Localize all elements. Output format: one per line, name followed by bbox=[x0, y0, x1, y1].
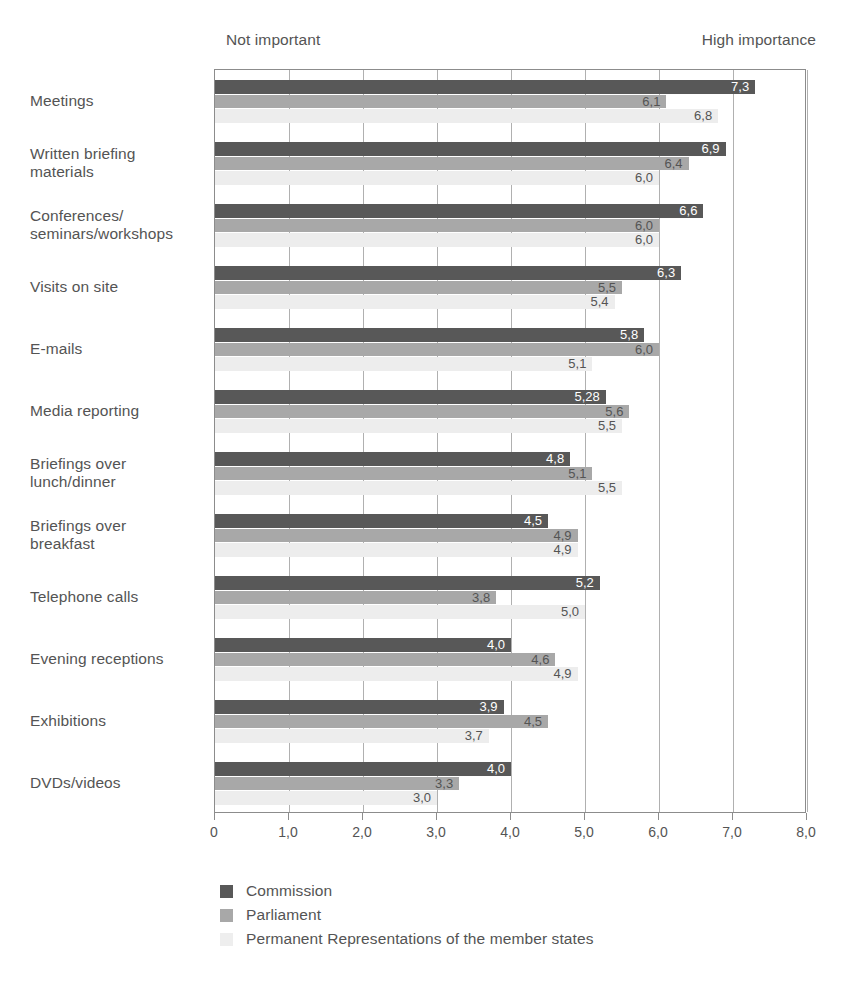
bar[interactable] bbox=[215, 605, 585, 619]
bar-row[interactable]: 5,5 bbox=[215, 419, 805, 433]
axis-tick-label: 8,0 bbox=[796, 824, 815, 840]
bar-group: 5,285,65,5 bbox=[215, 390, 805, 433]
bar[interactable] bbox=[215, 529, 578, 543]
bar[interactable] bbox=[215, 419, 622, 433]
bar-row[interactable]: 6,0 bbox=[215, 171, 805, 185]
bar-row[interactable]: 3,9 bbox=[215, 700, 805, 714]
bar-value-label: 5,1 bbox=[568, 466, 586, 481]
bar[interactable] bbox=[215, 233, 659, 247]
bar[interactable] bbox=[215, 638, 511, 652]
axis-tick-label: 0 bbox=[210, 824, 218, 840]
bar[interactable] bbox=[215, 295, 615, 309]
bar[interactable] bbox=[215, 667, 578, 681]
bar[interactable] bbox=[215, 281, 622, 295]
bar-row[interactable]: 6,6 bbox=[215, 204, 805, 218]
bar-row[interactable]: 3,8 bbox=[215, 591, 805, 605]
bar-row[interactable]: 3,0 bbox=[215, 791, 805, 805]
bar-row[interactable]: 4,0 bbox=[215, 762, 805, 776]
bar[interactable] bbox=[215, 729, 489, 743]
bar[interactable] bbox=[215, 653, 555, 667]
bar-row[interactable]: 4,9 bbox=[215, 543, 805, 557]
bar-row[interactable]: 6,1 bbox=[215, 95, 805, 109]
bar[interactable] bbox=[215, 762, 511, 776]
bar-row[interactable]: 4,6 bbox=[215, 653, 805, 667]
bar-value-label: 4,0 bbox=[487, 637, 505, 652]
bar-row[interactable]: 4,9 bbox=[215, 667, 805, 681]
bar[interactable] bbox=[215, 715, 548, 729]
legend-item[interactable]: Permanent Representations of the member … bbox=[220, 927, 594, 951]
bar[interactable] bbox=[215, 95, 666, 109]
bar-row[interactable]: 3,7 bbox=[215, 729, 805, 743]
bar[interactable] bbox=[215, 791, 437, 805]
bar[interactable] bbox=[215, 80, 755, 94]
bar[interactable] bbox=[215, 390, 606, 404]
bar-group: 6,35,55,4 bbox=[215, 266, 805, 309]
bar-row[interactable]: 4,8 bbox=[215, 452, 805, 466]
bar-row[interactable]: 4,5 bbox=[215, 514, 805, 528]
legend-swatch-icon bbox=[220, 933, 233, 946]
bar-row[interactable]: 5,28 bbox=[215, 390, 805, 404]
axis-tick bbox=[658, 813, 659, 820]
bar[interactable] bbox=[215, 777, 459, 791]
bar-row[interactable]: 5,2 bbox=[215, 576, 805, 590]
legend-item[interactable]: Parliament bbox=[220, 903, 594, 927]
bar[interactable] bbox=[215, 405, 629, 419]
bar-row[interactable]: 5,0 bbox=[215, 605, 805, 619]
bar-row[interactable]: 6,3 bbox=[215, 266, 805, 280]
bar[interactable] bbox=[215, 109, 718, 123]
bar[interactable] bbox=[215, 328, 644, 342]
bar-row[interactable]: 6,8 bbox=[215, 109, 805, 123]
bar-value-label: 3,0 bbox=[413, 790, 431, 805]
bar[interactable] bbox=[215, 219, 659, 233]
bar-row[interactable]: 6,0 bbox=[215, 343, 805, 357]
bar-row[interactable]: 6,0 bbox=[215, 233, 805, 247]
legend-label: Commission bbox=[246, 882, 332, 900]
bar[interactable] bbox=[215, 543, 578, 557]
bar[interactable] bbox=[215, 591, 496, 605]
category-label: Telephone calls bbox=[30, 588, 210, 606]
bar-row[interactable]: 4,5 bbox=[215, 715, 805, 729]
bar-group: 4,03,33,0 bbox=[215, 762, 805, 805]
bar-row[interactable]: 6,4 bbox=[215, 157, 805, 171]
bar-row[interactable]: 7,3 bbox=[215, 80, 805, 94]
bar-row[interactable]: 5,1 bbox=[215, 467, 805, 481]
bar-row[interactable]: 5,1 bbox=[215, 357, 805, 371]
bar-row[interactable]: 4,9 bbox=[215, 529, 805, 543]
bar-value-label: 5,5 bbox=[598, 280, 616, 295]
bar-row[interactable]: 6,9 bbox=[215, 142, 805, 156]
bar[interactable] bbox=[215, 343, 659, 357]
bar[interactable] bbox=[215, 576, 600, 590]
legend-item[interactable]: Commission bbox=[220, 879, 594, 903]
bar-value-label: 5,0 bbox=[561, 604, 579, 619]
bar[interactable] bbox=[215, 171, 659, 185]
bar[interactable] bbox=[215, 142, 726, 156]
bar-row[interactable]: 5,4 bbox=[215, 295, 805, 309]
axis-tick-label: 6,0 bbox=[648, 824, 667, 840]
bar-row[interactable]: 6,0 bbox=[215, 219, 805, 233]
bar[interactable] bbox=[215, 452, 570, 466]
bar[interactable] bbox=[215, 357, 592, 371]
legend: CommissionParliamentPermanent Representa… bbox=[220, 879, 594, 951]
bar[interactable] bbox=[215, 266, 681, 280]
bar-value-label: 6,9 bbox=[702, 141, 720, 156]
bar-row[interactable]: 3,3 bbox=[215, 777, 805, 791]
bar[interactable] bbox=[215, 700, 504, 714]
axis-tick bbox=[510, 813, 511, 820]
bar-row[interactable]: 5,6 bbox=[215, 405, 805, 419]
bar-group: 7,36,16,8 bbox=[215, 80, 805, 123]
bar[interactable] bbox=[215, 204, 703, 218]
bar[interactable] bbox=[215, 157, 689, 171]
bar-group: 4,54,94,9 bbox=[215, 514, 805, 557]
bar-row[interactable]: 5,5 bbox=[215, 281, 805, 295]
bar-row[interactable]: 5,5 bbox=[215, 481, 805, 495]
bar-row[interactable]: 4,0 bbox=[215, 638, 805, 652]
bar[interactable] bbox=[215, 467, 592, 481]
bar[interactable] bbox=[215, 481, 622, 495]
legend-swatch-icon bbox=[220, 909, 233, 922]
bar-value-label: 5,8 bbox=[620, 327, 638, 342]
gridline bbox=[807, 70, 808, 812]
axis-tick bbox=[288, 813, 289, 820]
bar-value-label: 4,0 bbox=[487, 761, 505, 776]
bar-row[interactable]: 5,8 bbox=[215, 328, 805, 342]
bar[interactable] bbox=[215, 514, 548, 528]
